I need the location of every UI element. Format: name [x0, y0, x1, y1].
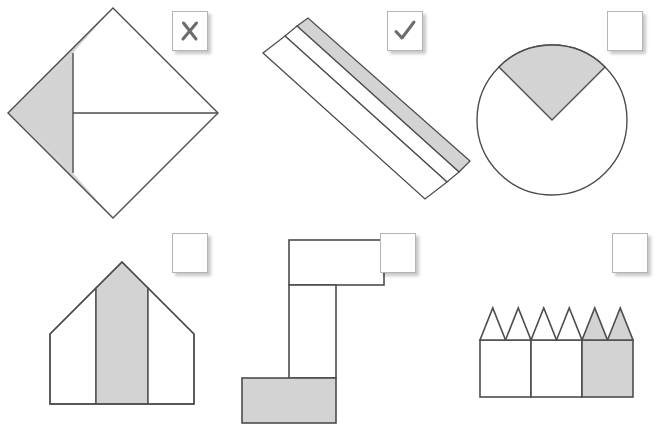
checkbox-z-block-shape[interactable] — [380, 233, 416, 273]
shape-item-crown-zigzag-shape — [450, 220, 667, 426]
checkbox-diamond-with-triangle[interactable] — [172, 11, 208, 51]
crown-triangle-3 — [531, 308, 557, 340]
crown-square-2 — [531, 340, 582, 397]
crown-square-3-shaded — [582, 340, 633, 397]
crown-triangle-5-shaded — [582, 308, 608, 340]
z-bottom-shaded-rectangle — [242, 378, 336, 423]
checkbox-crown-zigzag-shape[interactable] — [612, 233, 648, 273]
diagonal-striped-bar-shape — [245, 0, 475, 220]
crown-triangle-6-shaded — [608, 308, 634, 340]
shape-item-diamond-with-triangle — [0, 0, 225, 220]
bar-strip-middle — [285, 26, 459, 182]
house-left-band — [50, 288, 96, 404]
shape-item-circle-with-sector — [467, 0, 667, 220]
checkbox-house-with-stripe[interactable] — [172, 233, 208, 273]
z-block-shape — [230, 220, 450, 426]
crown-triangle-1 — [480, 308, 506, 340]
house-right-band — [148, 288, 194, 404]
empty-checkbox — [385, 240, 411, 266]
empty-checkbox — [177, 240, 203, 266]
house-shaded-band — [96, 262, 148, 404]
checkbox-circle-with-sector[interactable] — [607, 11, 643, 51]
shape-item-z-block-shape — [230, 220, 450, 426]
checkbox-diagonal-striped-bar[interactable] — [387, 11, 423, 51]
empty-checkbox — [617, 240, 643, 266]
shape-item-house-with-stripe — [0, 220, 225, 426]
shape-item-diagonal-striped-bar — [245, 0, 475, 220]
empty-checkbox — [612, 18, 638, 44]
crown-triangle-2 — [506, 308, 532, 340]
crown-triangle-4 — [557, 308, 583, 340]
z-top-rectangle — [289, 240, 384, 285]
diamond-shaded-region — [8, 53, 73, 173]
crown-square-1 — [480, 340, 531, 397]
check-mark-icon — [392, 18, 418, 44]
worksheet-page — [0, 0, 667, 426]
x-mark-icon — [177, 18, 203, 44]
z-vertical-stem — [289, 285, 336, 378]
